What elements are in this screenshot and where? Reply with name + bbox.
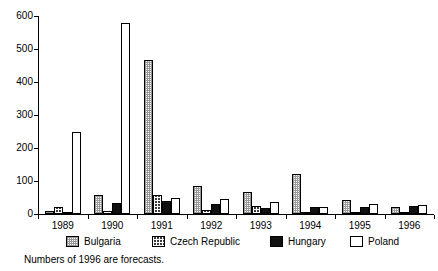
bar-czech-republic-1992 bbox=[202, 210, 211, 214]
x-tick-label-1992: 1992 bbox=[189, 220, 233, 231]
bar-bulgaria-1995 bbox=[342, 200, 351, 214]
x-tick-label-1995: 1995 bbox=[338, 220, 382, 231]
bar-hungary-1990 bbox=[112, 203, 121, 214]
legend-label-czech-republic: Czech Republic bbox=[170, 236, 240, 247]
y-tick-label: 200 bbox=[3, 143, 33, 153]
legend-item-czech-republic: Czech Republic bbox=[152, 234, 240, 248]
bar-hungary-1996 bbox=[409, 206, 418, 214]
bar-bulgaria-1991 bbox=[144, 60, 153, 214]
legend-item-poland: Poland bbox=[350, 234, 399, 248]
bar-hungary-1993 bbox=[261, 208, 270, 214]
bar-poland-1989 bbox=[72, 132, 81, 215]
chart-footnote: Numbers of 1996 are forecasts. bbox=[24, 254, 164, 266]
y-tick-label: 400 bbox=[3, 77, 33, 87]
bar-poland-1991 bbox=[171, 198, 180, 214]
x-tick-label-1996: 1996 bbox=[387, 220, 431, 231]
y-axis-tick bbox=[34, 115, 38, 116]
y-tick-label: 0 bbox=[3, 209, 33, 219]
bar-czech-republic-1995 bbox=[351, 212, 360, 214]
bar-hungary-1992 bbox=[211, 204, 220, 214]
x-tick-label-1994: 1994 bbox=[288, 220, 332, 231]
y-tick-label: 500 bbox=[3, 44, 33, 54]
bar-czech-republic-1991 bbox=[153, 195, 162, 214]
x-tick-label-1989: 1989 bbox=[41, 220, 85, 231]
y-tick-label: 300 bbox=[3, 110, 33, 120]
y-axis-tick bbox=[34, 82, 38, 83]
legend-swatch-hungary bbox=[270, 236, 283, 247]
legend-item-hungary: Hungary bbox=[270, 234, 326, 248]
bar-bulgaria-1993 bbox=[243, 192, 252, 214]
bar-bulgaria-1996 bbox=[391, 207, 400, 214]
x-axis-tick bbox=[236, 215, 237, 219]
x-axis-tick bbox=[385, 215, 386, 219]
bar-czech-republic-1993 bbox=[252, 206, 261, 214]
x-axis-tick bbox=[38, 215, 39, 219]
bar-bulgaria-1992 bbox=[193, 186, 202, 214]
bar-bulgaria-1990 bbox=[94, 195, 103, 214]
bar-chart-figure: 600 500 400 300 200 100 0 19891990199119… bbox=[0, 0, 438, 271]
y-tick-label: 100 bbox=[3, 176, 33, 186]
bar-czech-republic-1996 bbox=[400, 212, 409, 214]
y-axis-tick bbox=[34, 16, 38, 17]
bar-czech-republic-1990 bbox=[103, 211, 112, 214]
legend-label-bulgaria: Bulgaria bbox=[84, 236, 121, 247]
bar-czech-republic-1989 bbox=[54, 207, 63, 214]
y-axis-tick bbox=[34, 49, 38, 50]
legend-swatch-bulgaria bbox=[66, 236, 79, 247]
plot-area bbox=[38, 16, 434, 215]
legend-item-bulgaria: Bulgaria bbox=[66, 234, 121, 248]
x-axis-tick bbox=[286, 215, 287, 219]
legend-label-hungary: Hungary bbox=[288, 236, 326, 247]
y-axis-labels: 600 500 400 300 200 100 0 bbox=[0, 16, 33, 215]
bar-hungary-1989 bbox=[63, 212, 72, 214]
x-axis-tick bbox=[187, 215, 188, 219]
bar-hungary-1995 bbox=[360, 207, 369, 214]
y-tick-label: 600 bbox=[3, 11, 33, 21]
bar-bulgaria-1989 bbox=[45, 211, 54, 214]
bar-poland-1994 bbox=[319, 207, 328, 214]
x-axis-tick bbox=[335, 215, 336, 219]
bar-czech-republic-1994 bbox=[301, 212, 310, 214]
legend-swatch-czech-republic bbox=[152, 236, 165, 247]
x-tick-label-1990: 1990 bbox=[90, 220, 134, 231]
bar-poland-1992 bbox=[220, 199, 229, 214]
bar-poland-1995 bbox=[369, 204, 378, 214]
bar-hungary-1994 bbox=[310, 207, 319, 214]
bar-hungary-1991 bbox=[162, 201, 171, 214]
legend-label-poland: Poland bbox=[368, 236, 399, 247]
y-axis-line bbox=[38, 16, 39, 215]
bar-poland-1993 bbox=[270, 202, 279, 214]
x-axis-tick bbox=[434, 215, 435, 219]
bar-poland-1990 bbox=[121, 23, 130, 214]
bar-bulgaria-1994 bbox=[292, 174, 301, 214]
x-axis-tick bbox=[137, 215, 138, 219]
chart-legend: Bulgaria Czech Republic Hungary Poland bbox=[0, 234, 438, 252]
bar-poland-1996 bbox=[418, 205, 427, 214]
x-axis-tick bbox=[88, 215, 89, 219]
x-tick-label-1991: 1991 bbox=[140, 220, 184, 231]
y-axis-tick bbox=[34, 148, 38, 149]
y-axis-tick bbox=[34, 181, 38, 182]
legend-swatch-poland bbox=[350, 236, 363, 247]
x-tick-label-1993: 1993 bbox=[239, 220, 283, 231]
